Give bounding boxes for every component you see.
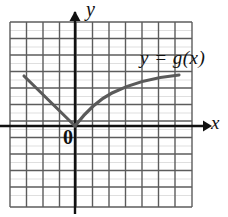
function-graph-figure: y x 0 y = g(x)	[0, 0, 228, 217]
function-curve-right-branch	[75, 75, 179, 126]
y-axis-label: y	[86, 0, 95, 19]
y-axis-arrowhead	[70, 11, 81, 21]
function-curve-left-branch	[24, 76, 75, 126]
function-equation-label: y = g(x)	[140, 48, 205, 67]
coordinate-plot	[0, 0, 228, 217]
x-axis-label: x	[211, 113, 219, 132]
origin-label: 0	[63, 127, 73, 147]
